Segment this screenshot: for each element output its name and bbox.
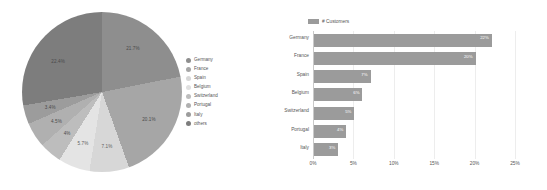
bar-value-label: 6% bbox=[353, 90, 359, 95]
pie-legend-label: Portugal bbox=[194, 102, 211, 108]
bar-row: Italy3% bbox=[313, 141, 515, 159]
pie-legend-item[interactable]: Germany bbox=[186, 57, 218, 63]
pie-slice-label: 7.1% bbox=[102, 143, 113, 148]
legend-dot-icon bbox=[186, 76, 191, 81]
pie-slice-label: 4% bbox=[64, 131, 71, 136]
bar-value-label: 20% bbox=[464, 54, 473, 59]
bar-chart-legend[interactable]: # Customers bbox=[308, 19, 349, 24]
pie-legend-label: Italy bbox=[194, 112, 202, 118]
legend-dot-icon bbox=[186, 112, 191, 117]
x-tick-label: 10% bbox=[389, 161, 399, 166]
pie-legend-item[interactable]: Spain bbox=[186, 75, 218, 81]
pie-slice-label: 21.7% bbox=[126, 45, 140, 50]
pie-chart-panel: 21.7%20.1%7.1%5.7%4%4.5%3.4%22.4% German… bbox=[0, 0, 272, 190]
pie-legend-item[interactable]: Belgium bbox=[186, 84, 218, 90]
x-tick-label: 5% bbox=[350, 161, 357, 166]
legend-dot-icon bbox=[186, 85, 191, 90]
bar-row: Portugal4% bbox=[313, 122, 515, 140]
pie-slice-label: 22.4% bbox=[51, 58, 65, 63]
pie-legend-item[interactable]: others bbox=[186, 121, 218, 127]
pie-legend-label: others bbox=[194, 121, 207, 127]
x-axis-ticks: 0%5%10%15%20%25% bbox=[313, 161, 515, 171]
pie-slice-label: 5.7% bbox=[78, 140, 89, 145]
bar-legend-label: # Customers bbox=[322, 19, 349, 24]
pie-slice-label: 20.1% bbox=[142, 116, 156, 121]
pie-legend-label: Switzerland bbox=[194, 93, 218, 99]
bar-category-label: Portugal bbox=[291, 127, 309, 132]
x-tick-label: 0% bbox=[310, 161, 317, 166]
pie-slice-label: 3.4% bbox=[45, 105, 56, 110]
dashboard-root: 21.7%20.1%7.1%5.7%4%4.5%3.4%22.4% German… bbox=[0, 0, 547, 190]
bar[interactable] bbox=[314, 34, 492, 47]
bar-category-label: Spain bbox=[297, 72, 309, 77]
bar-rows: Germany22%France20%Spain7%Belgium6%Switz… bbox=[313, 31, 515, 159]
bar[interactable] bbox=[314, 52, 476, 65]
gridline bbox=[515, 31, 516, 159]
bar-value-label: 3% bbox=[329, 145, 335, 150]
bar-category-label: Italy bbox=[300, 145, 309, 150]
pie-legend-label: Spain bbox=[194, 75, 206, 81]
x-tick-label: 20% bbox=[470, 161, 480, 166]
pie-legend-item[interactable]: Portugal bbox=[186, 102, 218, 108]
pie-legend-item[interactable]: France bbox=[186, 66, 218, 72]
bar-value-label: 4% bbox=[337, 127, 343, 132]
bar-value-label: 7% bbox=[361, 72, 367, 77]
bar-category-label: Belgium bbox=[292, 90, 309, 95]
pie-legend: GermanyFranceSpainBelgiumSwitzerlandPort… bbox=[186, 57, 218, 127]
bar-category-label: France bbox=[294, 53, 309, 58]
legend-dot-icon bbox=[186, 67, 191, 72]
bar-plot-area: Germany22%France20%Spain7%Belgium6%Switz… bbox=[313, 31, 515, 159]
pie-legend-item[interactable]: Switzerland bbox=[186, 93, 218, 99]
legend-dot-icon bbox=[186, 94, 191, 99]
bar-row: Germany22% bbox=[313, 31, 515, 49]
bar-row: France20% bbox=[313, 49, 515, 67]
bar-chart-panel: # Customers Germany22%France20%Spain7%Be… bbox=[272, 0, 547, 190]
bar-row: Belgium6% bbox=[313, 86, 515, 104]
pie-legend-label: France bbox=[194, 66, 208, 72]
bar-row: Switzerland5% bbox=[313, 104, 515, 122]
pie-slice-label: 4.5% bbox=[51, 119, 62, 124]
pie-legend-label: Germany bbox=[194, 57, 213, 63]
bar-row: Spain7% bbox=[313, 68, 515, 86]
x-tick-label: 25% bbox=[510, 161, 520, 166]
bar-value-label: 22% bbox=[480, 35, 489, 40]
legend-dot-icon bbox=[186, 103, 191, 108]
legend-dot-icon bbox=[186, 121, 191, 126]
pie-chart: 21.7%20.1%7.1%5.7%4%4.5%3.4%22.4% bbox=[22, 12, 182, 172]
bar-value-label: 5% bbox=[345, 109, 351, 114]
x-tick-label: 15% bbox=[429, 161, 439, 166]
legend-dot-icon bbox=[186, 58, 191, 63]
bar-category-label: Germany bbox=[289, 35, 309, 40]
legend-swatch-icon bbox=[308, 19, 319, 24]
pie-legend-item[interactable]: Italy bbox=[186, 112, 218, 118]
bar-category-label: Switzerland bbox=[284, 108, 309, 113]
pie-legend-label: Belgium bbox=[194, 84, 211, 90]
